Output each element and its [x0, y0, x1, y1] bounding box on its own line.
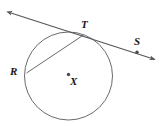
chord-rt-line	[27, 35, 84, 73]
point-label-x: X	[70, 76, 77, 87]
point-label-t: T	[81, 19, 88, 30]
geometry-diagram: T S R X	[0, 0, 165, 126]
point-label-r: R	[10, 66, 17, 77]
point-marker-s	[135, 51, 138, 54]
point-label-s: S	[134, 36, 140, 47]
